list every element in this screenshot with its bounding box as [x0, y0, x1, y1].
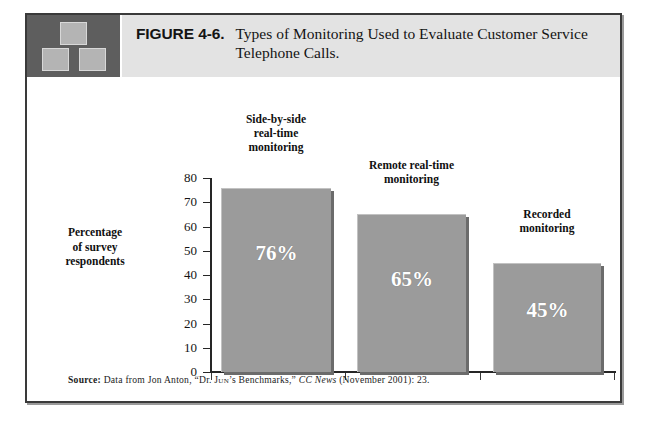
- source-text-2: ’s Benchmarks,”: [229, 374, 299, 385]
- y-tick-label-60: 60: [184, 219, 197, 235]
- y-tick-30: 30: [203, 299, 211, 300]
- plot-area: 80 70 60 50 40 30 20 10 0 76% Side-by-si…: [177, 99, 597, 389]
- source-text-1: Data from Jon Anton, “Dr.: [101, 374, 214, 385]
- figure-title: Types of Monitoring Used to Evaluate Cus…: [235, 24, 610, 62]
- y-tick-50: 50: [203, 251, 211, 252]
- y-axis-title-line-2: of survey: [41, 240, 149, 255]
- bar-caption-1-line-2: real-time: [206, 126, 346, 140]
- y-axis-title: Percentage of survey respondents: [41, 225, 149, 269]
- bar-caption-2-line-2: monitoring: [340, 172, 483, 186]
- source-publication: CC News: [299, 374, 337, 385]
- bar-caption-2-line-1: Remote real-time: [340, 158, 483, 172]
- figure-number: FIGURE 4-6.: [136, 24, 235, 43]
- y-tick-0: 0: [203, 372, 211, 373]
- bar-caption-3-line-1: Recorded: [477, 207, 617, 221]
- y-tick-10: 10: [203, 348, 211, 349]
- chart-body: Percentage of survey respondents 80 70 6…: [27, 77, 620, 401]
- x-tick-2: [480, 373, 481, 380]
- y-tick-label-70: 70: [184, 194, 197, 210]
- source-smallcaps: Jun: [214, 374, 229, 385]
- figure-header: FIGURE 4-6. Types of Monitoring Used to …: [27, 15, 620, 77]
- bar-caption-3: Recorded monitoring: [477, 207, 617, 235]
- source-text-3: (November 2001): 23.: [337, 374, 430, 385]
- three-squares-logo-icon: [27, 15, 120, 77]
- bar-caption-2: Remote real-time monitoring: [340, 158, 483, 186]
- bar-value-2: 65%: [358, 267, 466, 292]
- bar-side-by-side-real-time-monitoring[interactable]: 76%: [221, 188, 331, 372]
- y-tick-label-20: 20: [184, 316, 197, 332]
- y-tick-80: 80: [203, 178, 211, 179]
- x-tick-end: [614, 373, 615, 380]
- figure-titlebar: FIGURE 4-6. Types of Monitoring Used to …: [120, 15, 620, 77]
- y-tick-label-80: 80: [184, 170, 197, 186]
- bar-caption-1-line-3: monitoring: [206, 140, 346, 154]
- y-tick-70: 70: [203, 202, 211, 203]
- figure-container: FIGURE 4-6. Types of Monitoring Used to …: [25, 13, 622, 403]
- y-tick-40: 40: [203, 275, 211, 276]
- logo-square-right: [79, 48, 106, 71]
- y-tick-label-10: 10: [184, 340, 197, 356]
- y-tick-60: 60: [203, 227, 211, 228]
- y-tick-20: 20: [203, 324, 211, 325]
- y-tick-label-40: 40: [184, 267, 197, 283]
- bar-caption-3-line-2: monitoring: [477, 221, 617, 235]
- source-line: Source: Data from Jon Anton, “Dr. Jun’s …: [68, 374, 430, 385]
- source-label: Source:: [68, 374, 101, 385]
- bar-caption-1-line-1: Side-by-side: [206, 112, 346, 126]
- bar-remote-real-time-monitoring[interactable]: 65%: [357, 214, 466, 372]
- y-tick-label-50: 50: [184, 243, 197, 259]
- logo-square-left: [42, 48, 69, 71]
- logo-square-top: [60, 22, 87, 45]
- y-axis-title-line-1: Percentage: [41, 225, 149, 240]
- y-tick-label-30: 30: [184, 291, 197, 307]
- bar-recorded-monitoring[interactable]: 45%: [493, 263, 601, 372]
- bar-value-1: 76%: [222, 241, 331, 266]
- bar-value-3: 45%: [494, 298, 601, 323]
- bar-caption-1: Side-by-side real-time monitoring: [206, 112, 346, 154]
- y-axis-title-line-3: respondents: [41, 254, 149, 269]
